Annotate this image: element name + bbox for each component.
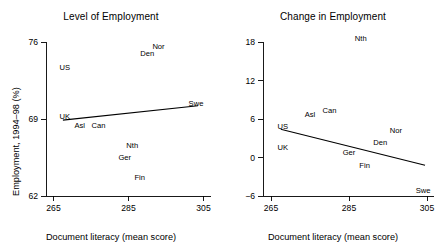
y-tick-label-left-0: 76 xyxy=(28,37,38,47)
data-point-label-nor: Nor xyxy=(152,42,165,51)
plot-area-right: 18 12 6 0 −6 265 285 305 USUKAslCanNthGe… xyxy=(222,0,444,248)
panel-level-of-employment: Level of Employment 76 69 62 265 285 305 xyxy=(0,0,222,248)
data-point-label-den: Den xyxy=(373,138,387,147)
y-tick-label-left-1: 69 xyxy=(28,114,38,124)
data-point-label-uk: UK xyxy=(59,112,70,121)
data-point-label-uk: UK xyxy=(277,143,288,152)
x-tick-label-left-0: 265 xyxy=(46,203,61,213)
data-point-label-fin: Fin xyxy=(359,161,370,170)
data-labels-left: USUKAslCanNthGerFinDenNorSwe xyxy=(59,42,203,182)
x-tick-label-right-0: 265 xyxy=(264,203,279,213)
data-point-label-asl: Asl xyxy=(74,121,85,130)
panel-change-in-employment: Change in Employment 18 12 6 0 −6 265 28… xyxy=(222,0,444,248)
x-tick-label-right-2: 305 xyxy=(420,203,435,213)
y-tick-label-right-2: 6 xyxy=(250,114,255,124)
x-axis-title-left: Document literacy (mean score) xyxy=(0,232,222,242)
data-labels-right: USUKAslCanNthGerFinDenNorSwe xyxy=(277,34,430,195)
x-tick-label-left-2: 305 xyxy=(196,203,211,213)
data-point-label-nth: Nth xyxy=(126,141,138,150)
data-point-label-can: Can xyxy=(323,106,337,115)
data-point-label-us: US xyxy=(59,63,70,72)
data-point-label-asl: Asl xyxy=(305,110,316,119)
two-panel-scatter-figure: Level of Employment 76 69 62 265 285 305 xyxy=(0,0,444,248)
y-tick-label-right-0: 18 xyxy=(245,37,255,47)
regression-line-left xyxy=(63,106,198,120)
data-point-label-nor: Nor xyxy=(390,126,403,135)
y-tick-label-right-4: −6 xyxy=(245,191,255,201)
data-point-label-ger: Ger xyxy=(118,153,131,162)
data-point-label-swe: Swe xyxy=(189,99,204,108)
y-tick-label-left-2: 62 xyxy=(28,191,38,201)
plot-area-left: 76 69 62 265 285 305 USUKAslCanNthGerFin… xyxy=(0,0,222,248)
data-point-label-nth: Nth xyxy=(355,34,367,43)
y-tick-label-right-1: 12 xyxy=(245,76,255,86)
data-point-label-den: Den xyxy=(140,49,154,58)
x-axis-title-right: Document literacy (mean score) xyxy=(222,232,444,242)
data-point-label-swe: Swe xyxy=(416,186,431,195)
y-axis-title-left: Employment, 1994–98 (%) xyxy=(11,87,21,196)
data-point-label-fin: Fin xyxy=(134,173,145,182)
x-tick-label-right-1: 285 xyxy=(342,203,357,213)
data-point-label-us: US xyxy=(277,122,288,131)
x-tick-label-left-1: 285 xyxy=(121,203,136,213)
data-point-label-ger: Ger xyxy=(343,148,356,157)
y-tick-label-right-3: 0 xyxy=(250,153,255,163)
data-point-label-can: Can xyxy=(92,121,106,130)
